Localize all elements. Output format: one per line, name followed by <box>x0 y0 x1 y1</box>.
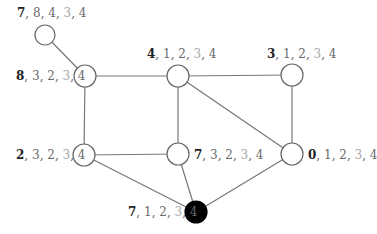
edge-4-0 <box>178 76 292 154</box>
label-node-8: 8, 3, 2, 3, 4 <box>16 69 86 83</box>
edge-8-2 <box>84 76 85 155</box>
node-7-middle[interactable] <box>167 143 189 165</box>
node-top[interactable] <box>35 25 55 45</box>
edges <box>45 35 292 212</box>
label-node-3: 3, 1, 2, 3, 4 <box>267 47 337 61</box>
label-node-0: 0, 1, 2, 3, 4 <box>308 148 377 162</box>
label-node-2: 2, 3, 2, 3, 4 <box>16 148 86 162</box>
node-0[interactable] <box>281 143 303 165</box>
graph-diagram: 7, 8, 4, 3, 4 8, 3, 2, 3, 4 4, 1, 2, 3, … <box>0 0 377 234</box>
label-node-black: 7, 1, 2, 3, 4 <box>128 205 198 219</box>
label-node-7-middle: 7, 3, 2, 3, 4 <box>194 148 264 162</box>
edge-2-7m <box>84 154 178 155</box>
edge-0-black <box>196 154 292 212</box>
label-node-top: 7, 8, 4, 3, 4 <box>17 6 87 20</box>
edge-4-3 <box>178 75 292 76</box>
node-3[interactable] <box>281 64 303 86</box>
label-node-4: 4, 1, 2, 3, 4 <box>147 47 217 61</box>
node-4[interactable] <box>167 65 189 87</box>
